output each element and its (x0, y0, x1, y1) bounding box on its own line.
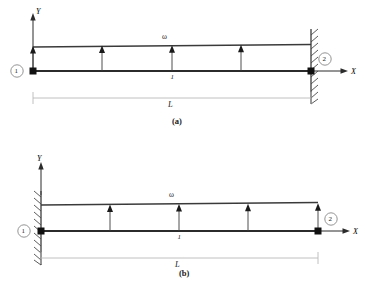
node-label-2-a (319, 53, 331, 65)
figure-a-drawing: Y X (0, 0, 365, 145)
distributed-load-line-b (41, 203, 318, 206)
dimension-line-a (33, 92, 311, 104)
x-axis-label-a: X (350, 67, 357, 76)
y-axis-label-b: Y (37, 154, 43, 163)
figure-b-drawing: Y X (0, 140, 365, 285)
x-axis-b (320, 228, 350, 233)
load-arrows-b (107, 203, 321, 231)
node-marker-2-b (315, 228, 322, 235)
y-axis-b (38, 162, 43, 195)
figure-a: Y X (0, 0, 365, 145)
node-label-2-b (325, 213, 337, 225)
node-marker-1-b (38, 228, 45, 235)
x-axis-a (311, 68, 348, 73)
node-label-1-b (18, 225, 30, 237)
node-label-1-a (11, 65, 23, 77)
load-arrows-a (30, 45, 244, 71)
dimension-line-b (41, 252, 318, 264)
fixed-support-wall-a (311, 29, 318, 104)
y-axis-label-a: Y (36, 7, 42, 16)
figure-b: Y X (0, 140, 365, 285)
x-axis-label-b: X (352, 227, 359, 236)
node-marker-1-a (30, 68, 37, 75)
node-marker-2-a (308, 68, 315, 75)
